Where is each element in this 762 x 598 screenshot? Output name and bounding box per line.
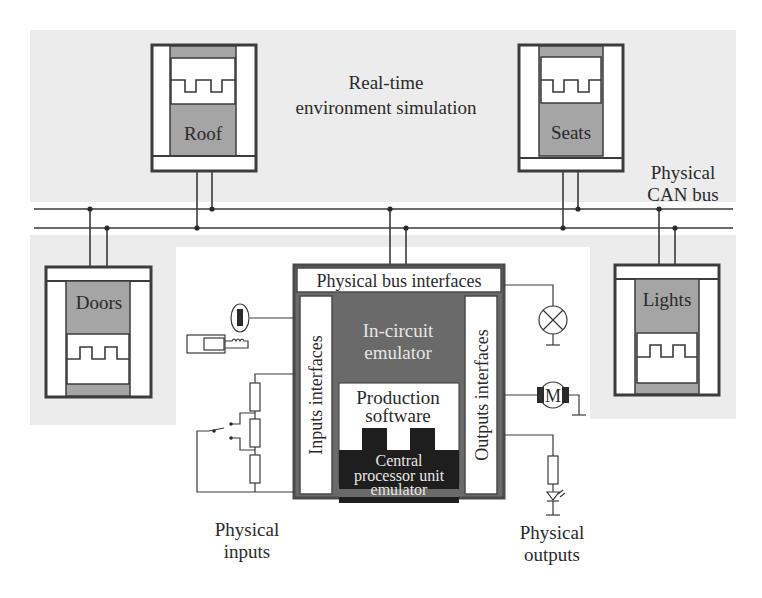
physical-inputs-label-1: Physical — [215, 519, 279, 540]
title-line-1: Real-time — [349, 72, 424, 93]
ecu-doors-label: Doors — [76, 292, 122, 313]
resistor-divider-icon — [197, 374, 295, 492]
physical-inputs: Physical inputs — [187, 304, 295, 562]
hall-sensor-icon — [231, 304, 295, 332]
physical-outputs-label-2: outputs — [524, 544, 580, 565]
physical-inputs-label-2: inputs — [224, 541, 270, 562]
resistor-led-icon — [504, 435, 565, 515]
physical-outputs-label-1: Physical — [520, 522, 584, 543]
ignition-key-icon — [187, 335, 248, 353]
motor-letter: M — [545, 386, 561, 406]
production-software-label-2: software — [365, 405, 430, 426]
lamp-icon — [504, 285, 567, 345]
physical-outputs: M Physical outputs — [504, 285, 586, 565]
ecu-lights-label: Lights — [643, 289, 692, 310]
diagram-canvas: Real-time environment simulation Physica… — [0, 0, 762, 598]
in-circuit-label-2: emulator — [364, 342, 432, 363]
ecu-seats-label: Seats — [551, 122, 591, 143]
bus-interfaces-label: Physical bus interfaces — [317, 271, 482, 291]
ecu-roof-label: Roof — [184, 123, 223, 144]
bus-label-line-1: Physical — [651, 162, 715, 183]
in-circuit-emulator: Physical bus interfaces Inputs interface… — [294, 206, 504, 503]
in-circuit-label-1: In-circuit — [363, 320, 434, 341]
inputs-interfaces-label: Inputs interfaces — [306, 335, 326, 454]
title-line-2: environment simulation — [295, 97, 477, 118]
outputs-interfaces-label: Outputs interfaces — [472, 329, 492, 460]
cpu-label-3: emulator — [371, 481, 429, 498]
bus-label-line-2: CAN bus — [647, 184, 718, 205]
motor-icon: M — [504, 382, 586, 415]
